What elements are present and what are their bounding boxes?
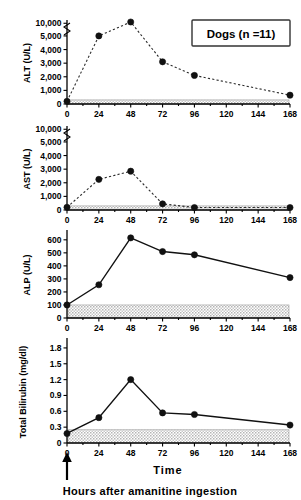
data-point-marker [128, 19, 134, 25]
y-tick-label: 0 [57, 313, 62, 323]
x-tick-label: 72 [158, 109, 168, 119]
y-tick-label: 4,000 [40, 151, 62, 161]
y-tick-label: 5,000 [40, 31, 62, 41]
data-point-marker [287, 422, 293, 428]
reference-range-band [68, 430, 289, 443]
y-tick-label: 0.3 [50, 422, 62, 432]
x-tick-label: 0 [65, 323, 70, 333]
data-point-marker [128, 377, 134, 383]
x-tick-label: 96 [190, 448, 200, 458]
x-tick-label: 168 [283, 323, 297, 333]
panel-ast: 01,0002,0003,0004,0005,00010,00002448729… [22, 124, 297, 225]
time-axis-title: Time [153, 464, 182, 476]
y-tick-label: 0 [57, 205, 62, 215]
y-tick-label: 1,000 [40, 191, 62, 201]
data-point-marker [159, 248, 165, 254]
x-tick-label: 24 [94, 448, 104, 458]
data-point-marker [96, 176, 102, 182]
data-series-line [67, 238, 290, 305]
y-tick-label: 5,000 [40, 137, 62, 147]
x-tick-label: 72 [158, 215, 168, 225]
data-point-marker [287, 204, 293, 210]
panel-tbil: 00.30.60.91.21.51.8024487296120144168Tot… [18, 338, 297, 458]
x-tick-label: 48 [126, 215, 136, 225]
y-tick-label: 2,000 [40, 72, 62, 82]
y-tick-label: 1.8 [50, 343, 62, 353]
x-tick-label: 96 [190, 215, 200, 225]
y-axis-title: Total Bilirubin (mg/dl) [18, 346, 28, 438]
x-tick-label: 0 [65, 109, 70, 119]
data-point-marker [191, 204, 197, 210]
y-axis-title: ALT (U/L) [22, 43, 32, 83]
x-tick-label: 120 [219, 109, 233, 119]
x-tick-label: 24 [94, 215, 104, 225]
y-axis-title: ALP (U/L) [22, 255, 32, 296]
x-tick-label: 48 [126, 323, 136, 333]
x-tick-label: 168 [283, 109, 297, 119]
x-tick-label: 96 [190, 323, 200, 333]
y-tick-label: 3,000 [40, 58, 62, 68]
x-tick-label: 72 [158, 323, 168, 333]
data-point-marker [96, 33, 102, 39]
x-tick-label: 144 [251, 109, 265, 119]
y-tick-label: 200 [47, 287, 61, 297]
y-tick-label: 10,000 [36, 18, 62, 28]
liver-enzyme-figure: 01,0002,0003,0004,0005,00010,00002448729… [0, 0, 301, 500]
x-tick-label: 144 [251, 323, 265, 333]
y-tick-label: 600 [47, 235, 61, 245]
x-tick-label: 0 [65, 215, 70, 225]
data-point-marker [64, 302, 70, 308]
y-tick-label: 0 [57, 438, 62, 448]
x-tick-label: 48 [126, 448, 136, 458]
legend-box: Dogs (n =11) [192, 20, 290, 46]
y-tick-label: 0 [57, 99, 62, 109]
data-point-marker [191, 411, 197, 417]
data-point-marker [287, 92, 293, 98]
x-tick-label: 144 [251, 448, 265, 458]
y-tick-label: 4,000 [40, 45, 62, 55]
data-point-marker [159, 410, 165, 416]
figure-canvas: 01,0002,0003,0004,0005,00010,00002448729… [0, 0, 301, 500]
x-tick-label: 24 [94, 323, 104, 333]
y-tick-label: 1.2 [50, 375, 62, 385]
ingestion-arrow-head [62, 452, 72, 462]
data-point-marker [64, 98, 70, 104]
y-axis-title: AST (U/L) [22, 149, 32, 190]
x-tick-label: 48 [126, 109, 136, 119]
x-tick-label: 144 [251, 215, 265, 225]
y-axis-break-symbol [64, 129, 70, 141]
data-point-marker [191, 72, 197, 78]
data-point-marker [159, 201, 165, 207]
y-tick-label: 1,000 [40, 85, 62, 95]
y-tick-label: 400 [47, 261, 61, 271]
y-tick-label: 0.6 [50, 406, 62, 416]
data-point-marker [64, 430, 70, 436]
data-point-marker [159, 59, 165, 65]
y-tick-label: 300 [47, 274, 61, 284]
x-tick-label: 120 [219, 215, 233, 225]
legend-label: Dogs (n =11) [207, 28, 276, 40]
time-axis-annotation: Time Hours after amanitine ingestion [62, 452, 237, 497]
x-tick-label: 96 [190, 109, 200, 119]
x-tick-label: 72 [158, 448, 168, 458]
data-point-marker [191, 252, 197, 258]
x-tick-label: 24 [94, 109, 104, 119]
y-tick-label: 0.9 [50, 390, 62, 400]
data-point-marker [64, 204, 70, 210]
data-point-marker [96, 282, 102, 288]
x-tick-label: 120 [219, 448, 233, 458]
figure-caption: Hours after amanitine ingestion [63, 485, 237, 497]
y-tick-label: 2,000 [40, 178, 62, 188]
reference-range-band [68, 305, 289, 318]
x-tick-label: 120 [219, 323, 233, 333]
y-axis-break-symbol [64, 23, 70, 35]
data-series-line [67, 380, 290, 434]
data-point-marker [287, 275, 293, 281]
data-point-marker [128, 235, 134, 241]
x-tick-label: 168 [283, 448, 297, 458]
y-tick-label: 100 [47, 300, 61, 310]
y-tick-label: 10,000 [36, 124, 62, 134]
y-tick-label: 1.5 [50, 359, 62, 369]
y-tick-label: 3,000 [40, 164, 62, 174]
data-point-marker [128, 168, 134, 174]
